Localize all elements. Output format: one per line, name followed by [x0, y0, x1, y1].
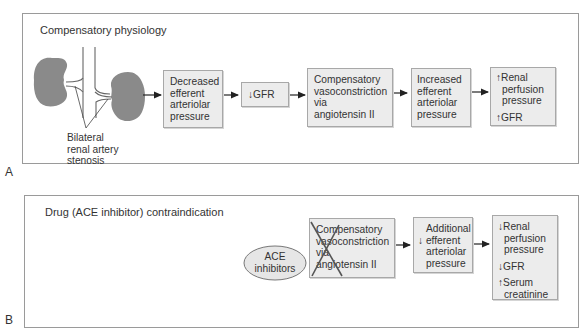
box-increased-renal-perfusion: ↑Renal perfusion pressure ↑GFR — [490, 67, 556, 126]
box-blocked-vasoconstriction: Compensatory vasoconstriction via angiot… — [309, 218, 395, 278]
box-decreased-efferent-pressure: Decreased efferent arteriolar pressure — [163, 70, 223, 128]
stenosis-label: Bilateral renal artery stenosis — [67, 132, 119, 167]
stenosis-pointer — [75, 86, 108, 128]
box-increased-efferent-pressure: Increased efferent arteriolar pressure — [411, 68, 471, 127]
aorta-vessels — [66, 47, 112, 118]
box-decreased-gfr: ↓GFR — [241, 82, 289, 107]
ace-inhibitors-label: ACE inhibitors — [245, 251, 305, 274]
box-compensatory-vasoconstriction: Compensatory vasoconstriction via angiot… — [307, 68, 393, 127]
box-decreased-renal-perfusion: ↓Renal perfusion pressure ↓GFR ↑Serum cr… — [492, 215, 558, 300]
box-additional-decreased-efferent: Additional ↓ efferent arteriolar pressur… — [413, 217, 473, 273]
right-kidney-icon — [111, 72, 145, 121]
left-kidney-icon — [34, 58, 67, 107]
